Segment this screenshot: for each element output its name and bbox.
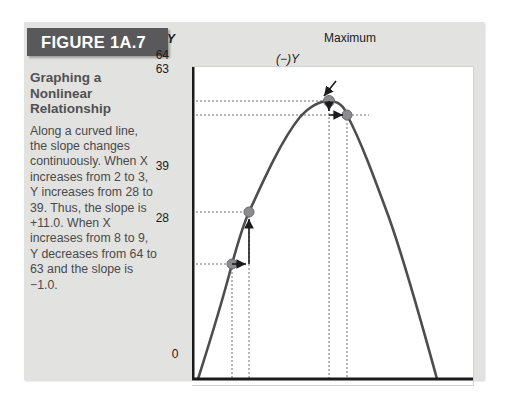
- figure-panel: FIGURE 1A.7 Graphing a Nonlinear Relatio…: [24, 22, 484, 380]
- annotation-maximum: Maximum: [324, 31, 376, 45]
- plot-frame: [192, 66, 474, 386]
- y-tick-label-64: 64: [147, 48, 169, 62]
- caption-title: Graphing a Nonlinear Relationship: [30, 70, 158, 117]
- y-tick-label-63: 63: [147, 62, 169, 76]
- plot-svg: [192, 67, 473, 385]
- figure-caption: Graphing a Nonlinear Relationship Along …: [30, 70, 158, 293]
- horizontal-guides: [192, 101, 369, 264]
- data-point-3-39: [244, 207, 254, 217]
- curve-path: [198, 101, 437, 379]
- y-tick-label-39: 39: [147, 159, 169, 173]
- arrow-maximum-pointer: [324, 81, 336, 96]
- x-tick-label-0: 0: [165, 347, 185, 361]
- data-markers: [227, 96, 352, 270]
- y-tick-label-28: 28: [147, 211, 169, 225]
- data-point-9-63: [342, 110, 352, 120]
- caption-body: Along a curved line, the slope changes c…: [30, 124, 158, 293]
- measure-arrows: [232, 81, 343, 264]
- annotation-y-negative: (−)Y: [276, 52, 299, 66]
- y-axis-name: Y: [167, 32, 175, 46]
- figure-number-label: FIGURE 1A.7: [27, 33, 146, 52]
